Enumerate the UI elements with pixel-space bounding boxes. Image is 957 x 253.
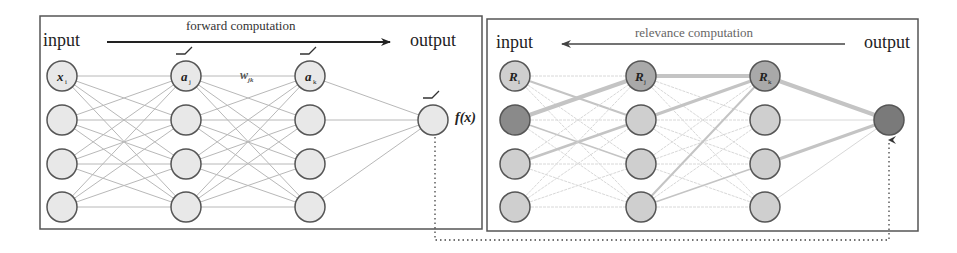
forward-node [171, 149, 201, 179]
relevance-node [626, 105, 656, 135]
relevance-node [750, 192, 780, 222]
node-label: a [181, 69, 188, 84]
relevance-panel-box [487, 19, 918, 231]
forward-node [295, 192, 325, 222]
relevance-node [750, 105, 780, 135]
node-subscript: i [518, 78, 520, 86]
relevance-output-node [874, 105, 904, 135]
relevance-node [750, 149, 780, 179]
forward-caption: forward computation [186, 18, 295, 34]
lrp-diagram: xiajak RiRjRk input output forward compu… [0, 0, 957, 253]
forward-node [171, 105, 201, 135]
weight-subscript: jk [248, 76, 253, 84]
relevance-node [500, 192, 530, 222]
node-subscript: j [188, 78, 191, 86]
forward-node [47, 149, 77, 179]
weight-symbol: w [240, 68, 248, 82]
node-label: R [508, 69, 518, 84]
dotted-connector [435, 137, 889, 240]
diagram-canvas: xiajak RiRjRk [0, 0, 957, 253]
relevance-edges [515, 76, 889, 207]
forward-node [295, 105, 325, 135]
forward-output-label: output [410, 30, 456, 51]
relevance-input-label: input [496, 32, 533, 53]
weight-label: wjk [240, 68, 253, 84]
relevance-output-label: output [864, 32, 910, 53]
node-label: x [56, 69, 64, 84]
node-subscript: i [65, 78, 67, 86]
forward-node [171, 192, 201, 222]
forward-node [295, 149, 325, 179]
node-subscript: k [313, 78, 317, 86]
relevance-node [626, 149, 656, 179]
node-label: R [634, 69, 644, 84]
relu-icon [423, 91, 439, 98]
forward-output-node [418, 105, 448, 135]
relevance-node [626, 192, 656, 222]
forward-edges [62, 76, 433, 207]
node-label: R [758, 69, 768, 84]
forward-node [47, 105, 77, 135]
node-subscript: j [643, 78, 646, 86]
node-subscript: k [768, 78, 772, 86]
node-label: a [305, 69, 312, 84]
relevance-caption: relevance computation [635, 25, 753, 41]
forward-input-label: input [43, 30, 80, 51]
relevance-node [500, 149, 530, 179]
relu-icon [300, 47, 316, 54]
relu-icon [176, 47, 192, 54]
forward-node [47, 192, 77, 222]
relevance-node [500, 105, 530, 135]
output-function-label: f(x) [455, 110, 476, 126]
